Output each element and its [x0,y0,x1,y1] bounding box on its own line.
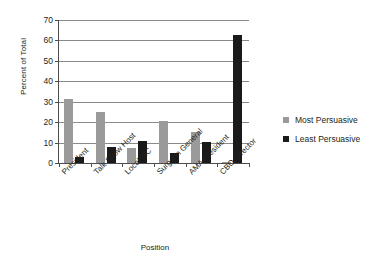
legend-item[interactable]: Least Persuasive [283,129,377,148]
bar [64,99,73,163]
legend-item[interactable]: Most Persuasive [283,110,377,129]
chart-legend: Most PersuasiveLeast Persuasive [283,110,377,148]
y-axis-tick-label: 0 [48,158,53,168]
x-axis-title: Position [40,243,270,252]
legend-swatch-icon [283,136,289,142]
bar [233,35,242,163]
x-axis-tick [154,163,155,167]
x-axis-tick [122,163,123,167]
legend-swatch-icon [283,117,289,123]
y-axis-tick-label: 50 [44,56,53,66]
x-axis-tick [217,163,218,167]
bar-chart-figure: Percent of Total 010203040506070 Preside… [0,0,377,272]
y-axis-tick-label: 20 [44,117,53,127]
legend-label: Most Persuasive [295,115,358,125]
x-axis-tick [91,163,92,167]
bar [96,112,105,163]
y-axis-tick-label: 60 [44,35,53,45]
y-axis-tick-label: 40 [44,76,53,86]
y-axis-title: Percent of Total [19,7,28,127]
y-axis-tick-label: 70 [44,15,53,25]
y-axis-tick-label: 30 [44,97,53,107]
bar-group [154,20,186,163]
y-axis-tick-label: 10 [44,138,53,148]
legend-label: Least Persuasive [295,134,360,144]
x-axis-tick [59,163,60,167]
x-axis-tick [249,163,250,167]
bar-group [91,20,123,163]
x-axis-tick [186,163,187,167]
bar-group [59,20,91,163]
